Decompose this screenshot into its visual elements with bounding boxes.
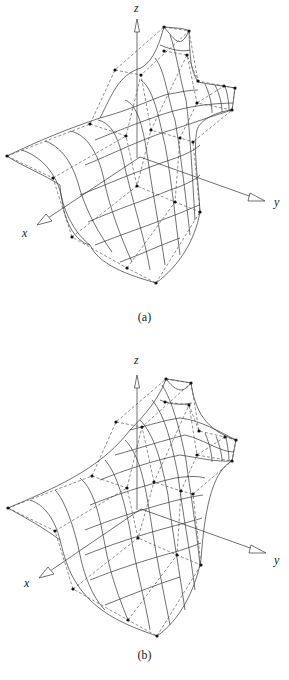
surface-grid-a (7, 27, 235, 283)
surface-plot-b: z y x (0, 340, 289, 680)
control-points-a (5, 25, 236, 284)
x-axis-a (48, 157, 140, 218)
figure-a: z y x (a) (0, 0, 289, 340)
y-axis-arrow-icon (248, 193, 265, 201)
z-axis-arrow-icon (135, 375, 140, 388)
x-axis-label-b: x (23, 576, 30, 590)
y-axis-label-a: y (273, 195, 280, 209)
control-polygon-a (7, 27, 235, 283)
x-axis-arrow-icon (37, 214, 52, 225)
caption-a: (a) (0, 310, 289, 325)
x-axis-label-a: x (21, 226, 28, 240)
control-polygon-b (8, 379, 236, 636)
surface-grid-b (8, 379, 236, 636)
x-axis-arrow-icon (39, 567, 54, 578)
y-axis-label-b: y (273, 553, 280, 567)
z-axis-label-b: z (133, 353, 139, 367)
surface-plot-a: z y x (0, 0, 289, 340)
y-axis-arrow-icon (249, 545, 266, 553)
axes-a (37, 19, 265, 225)
figure-b: z y x (b) (0, 340, 289, 680)
z-axis-arrow-icon (135, 19, 140, 32)
z-axis-label-a: z (133, 1, 139, 15)
caption-b: (b) (0, 648, 289, 663)
y-axis-b (141, 509, 253, 549)
